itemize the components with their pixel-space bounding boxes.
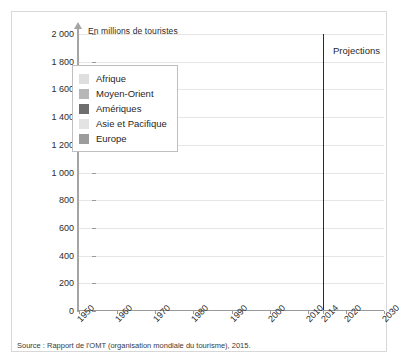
legend-item-label: Afrique	[96, 73, 126, 84]
projections-label: Projections	[333, 45, 380, 56]
y-axis-tick-label: 1 400	[22, 112, 74, 122]
y-axis-tick-mark	[92, 62, 96, 63]
y-axis-tick-mark	[92, 200, 96, 201]
x-axis-line	[77, 310, 384, 311]
y-axis-tick-label: 1 600	[22, 84, 74, 94]
legend-item: Asie et Pacifique	[79, 116, 167, 131]
gridline	[79, 62, 384, 63]
y-axis-tick-label: 200	[22, 278, 74, 288]
gridline	[79, 283, 384, 284]
gridline	[79, 228, 384, 229]
y-axis-tick-label: 800	[22, 195, 74, 205]
legend-item-label: Europe	[96, 133, 127, 144]
y-axis-tick-mark	[92, 34, 96, 35]
legend-item-label: Moyen-Orient	[96, 88, 154, 99]
y-axis-tick-label: 400	[22, 251, 74, 261]
source-caption: Source : Rapport de l'OMT (organisation …	[17, 341, 251, 350]
legend-color-swatch	[79, 74, 89, 84]
y-axis-tick-mark	[92, 311, 96, 312]
projections-divider-line	[323, 34, 324, 311]
y-axis-tick-mark	[92, 173, 96, 174]
legend-item-label: Asie et Pacifique	[96, 118, 167, 129]
gridline	[79, 256, 384, 257]
y-axis-tick-mark	[92, 256, 96, 257]
y-axis-ticks: 2 0001 8001 6001 4001 2001 0008006004002…	[18, 34, 74, 311]
chart-legend: AfriqueMoyen-OrientAmériquesAsie et Paci…	[72, 65, 178, 152]
y-axis-tick-mark	[92, 283, 96, 284]
legend-item: Moyen-Orient	[79, 86, 167, 101]
y-axis-tick-label: 1 800	[22, 57, 74, 67]
y-axis-tick-label: 1 200	[22, 140, 74, 150]
y-axis-arrow-icon	[74, 22, 82, 29]
legend-item: Afrique	[79, 71, 167, 86]
legend-item: Europe	[79, 131, 167, 146]
gridline	[79, 200, 384, 201]
y-axis-tick-label: 0	[22, 306, 74, 316]
legend-color-swatch	[79, 104, 89, 114]
gridline	[79, 173, 384, 174]
legend-color-swatch	[79, 134, 89, 144]
gridline	[79, 34, 384, 35]
y-axis-tick-label: 600	[22, 223, 74, 233]
legend-color-swatch	[79, 119, 89, 129]
legend-item: Amériques	[79, 101, 167, 116]
legend-item-label: Amériques	[96, 103, 141, 114]
y-axis-tick-mark	[92, 228, 96, 229]
legend-color-swatch	[79, 89, 89, 99]
y-axis-tick-label: 2 000	[22, 29, 74, 39]
y-axis-tick-label: 1 000	[22, 168, 74, 178]
